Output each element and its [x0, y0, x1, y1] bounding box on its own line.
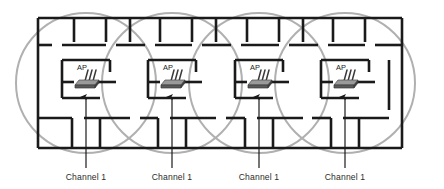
ap-device-icon-1: [75, 70, 99, 88]
coverage-floor-plan: AP AP AP AP Channel 1 Channel 1 Channel …: [0, 0, 444, 189]
channel-label-4: Channel 1: [325, 172, 366, 182]
ap-label-1: AP: [77, 63, 87, 72]
channel-label-3: Channel 1: [239, 172, 280, 182]
callout-arrows-group: [86, 97, 345, 168]
ap-label-2: AP: [163, 63, 173, 72]
diagram-canvas: AP AP AP AP Channel 1 Channel 1 Channel …: [0, 0, 444, 189]
ap-device-icon-4: [334, 70, 358, 88]
ap-label-4: AP: [336, 63, 346, 72]
ap-device-icon-2: [161, 70, 185, 88]
channel-label-2: Channel 1: [152, 172, 193, 182]
ap-device-icon-3: [248, 70, 272, 88]
channel-label-1: Channel 1: [66, 172, 107, 182]
ap-label-3: AP: [250, 63, 260, 72]
